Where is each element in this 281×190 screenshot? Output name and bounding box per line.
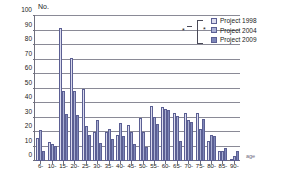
x-axis-tick-label: 65- — [172, 163, 183, 169]
legend-item[interactable]: Project 2004 — [211, 27, 257, 34]
y-axis-tick-label: 50 — [25, 78, 32, 85]
bar — [236, 151, 239, 161]
legend: Project 1998Project 2004Project 2009 — [211, 17, 257, 43]
bar — [179, 141, 182, 161]
x-axis-tick-label: 35- — [103, 163, 114, 169]
x-axis-title: age — [246, 153, 255, 159]
bar — [213, 136, 216, 161]
legend-label: Project 2009 — [220, 36, 257, 43]
y-axis-tick-label: 10 — [25, 136, 32, 143]
y-axis-tick-label: 100 — [21, 6, 32, 13]
x-axis-tick-label: 30- — [92, 163, 103, 169]
bar-group — [138, 16, 149, 161]
y-axis-tick-label: 80 — [25, 35, 32, 42]
x-axis-tick-label: 70- — [183, 163, 194, 169]
significance-star-inner: * — [203, 26, 206, 33]
bar — [88, 135, 91, 161]
legend-swatch — [211, 37, 217, 43]
bar — [65, 114, 68, 161]
legend-item[interactable]: Project 1998 — [211, 17, 257, 24]
y-axis-tick-label: 60 — [25, 64, 32, 71]
bar — [224, 148, 227, 161]
bar — [76, 115, 79, 161]
y-axis-tick-label: 30 — [25, 107, 32, 114]
x-axis-tick-label: 25- — [81, 163, 92, 169]
bar-group — [69, 16, 80, 161]
bar — [202, 119, 205, 161]
bar-group — [160, 16, 171, 161]
x-axis-labels: 6-10-15-20-25-30-35-40-45-50-55-60-65-70… — [35, 163, 240, 169]
legend-swatch — [211, 18, 217, 24]
y-axis-tick-label: 70 — [25, 49, 32, 56]
x-axis-tick-label: 85- — [217, 163, 228, 169]
bar — [122, 136, 125, 161]
y-axis-tick-label: 20 — [25, 122, 32, 129]
bar — [99, 143, 102, 161]
legend-swatch — [211, 27, 217, 33]
bar-group — [58, 16, 69, 161]
bar — [42, 151, 45, 161]
bar-group — [35, 16, 46, 161]
x-axis-tick-label: 50- — [138, 163, 149, 169]
bar — [54, 146, 57, 161]
bar-group — [172, 16, 183, 161]
bar — [156, 124, 159, 161]
x-axis-tick-label: 6- — [35, 163, 46, 169]
significance-brackets: * * — [183, 18, 213, 46]
x-axis-tick-label: 40- — [115, 163, 126, 169]
y-axis-tick-label: 0 — [28, 151, 32, 158]
x-axis-tick-label: 75- — [194, 163, 205, 169]
significance-star-outer: * — [182, 27, 185, 34]
legend-label: Project 1998 — [220, 17, 257, 24]
bar — [133, 144, 136, 161]
bar — [145, 147, 148, 162]
legend-item[interactable]: Project 2009 — [211, 36, 257, 43]
bar-group — [103, 16, 114, 161]
bar-group — [126, 16, 137, 161]
bar-chart: No. age 0102030405060708090100 6-10-15-2… — [0, 0, 281, 190]
x-axis-tick-label: 90- — [229, 163, 240, 169]
x-axis-tick-label: 45- — [126, 163, 137, 169]
bracket-outer — [187, 26, 192, 27]
bar-group — [149, 16, 160, 161]
bar — [190, 122, 193, 161]
bar-group — [81, 16, 92, 161]
x-axis-tick-label: 20- — [69, 163, 80, 169]
y-axis-tick-label: 90 — [25, 20, 32, 27]
x-axis-tick-label: 15- — [58, 163, 69, 169]
x-axis-tick-label: 60- — [160, 163, 171, 169]
bar — [111, 139, 114, 161]
legend-label: Project 2004 — [220, 27, 257, 34]
x-axis-tick-label: 10- — [46, 163, 57, 169]
bar-group — [92, 16, 103, 161]
y-axis-tick-label: 40 — [25, 93, 32, 100]
y-axis-title: No. — [38, 3, 49, 10]
x-axis-tick-label: 55- — [149, 163, 160, 169]
x-axis-tick-label: 80- — [206, 163, 217, 169]
bar-group — [46, 16, 57, 161]
bar — [167, 110, 170, 161]
bar-group — [115, 16, 126, 161]
